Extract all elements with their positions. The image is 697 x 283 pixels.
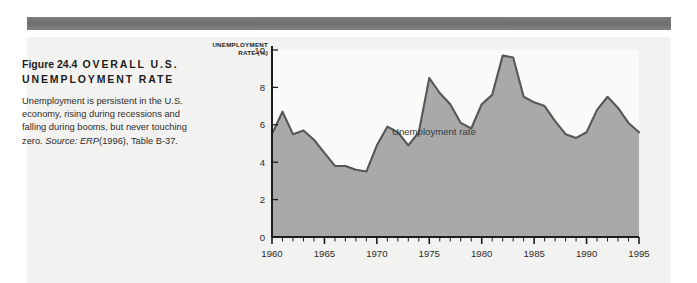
figure-number: Figure 24.4 xyxy=(22,58,77,70)
source-publication: ERP xyxy=(80,136,99,146)
svg-text:1985: 1985 xyxy=(523,248,544,259)
svg-text:1970: 1970 xyxy=(366,248,387,259)
figure-page: Figure 24.4OVERALL U.S. UNEMPLOYMENT RAT… xyxy=(0,0,697,283)
svg-text:4: 4 xyxy=(260,157,266,168)
x-tick-group: 19601965197019751980198519901995 xyxy=(261,237,649,259)
svg-text:1995: 1995 xyxy=(628,248,649,259)
svg-text:0: 0 xyxy=(260,232,265,243)
source-label: Source: xyxy=(45,136,77,146)
figure-caption: Figure 24.4OVERALL U.S. UNEMPLOYMENT RAT… xyxy=(22,57,194,148)
unemployment-chart: UNEMPLOYMENT RATE (%) 0246810 1960196519… xyxy=(196,40,651,266)
plot-svg: 0246810 19601965197019751980198519901995… xyxy=(196,40,651,266)
figure-caption-body: Unemployment is persistent in the U.S. e… xyxy=(22,95,194,148)
svg-text:8: 8 xyxy=(260,82,265,93)
series-annotation-label: Unemployment rate xyxy=(392,126,476,137)
svg-text:6: 6 xyxy=(260,119,265,130)
source-detail: (1996), Table B-37. xyxy=(99,136,178,146)
svg-text:1965: 1965 xyxy=(314,248,335,259)
svg-text:1975: 1975 xyxy=(419,248,440,259)
top-rule-divider xyxy=(27,17,671,30)
svg-text:1980: 1980 xyxy=(471,248,492,259)
plot-area: 0246810 19601965197019751980198519901995… xyxy=(196,40,651,266)
figure-caption-title: Figure 24.4OVERALL U.S. UNEMPLOYMENT RAT… xyxy=(22,57,194,87)
svg-text:10: 10 xyxy=(254,45,265,56)
svg-text:1960: 1960 xyxy=(261,248,282,259)
svg-text:2: 2 xyxy=(260,194,265,205)
svg-text:1990: 1990 xyxy=(576,248,597,259)
